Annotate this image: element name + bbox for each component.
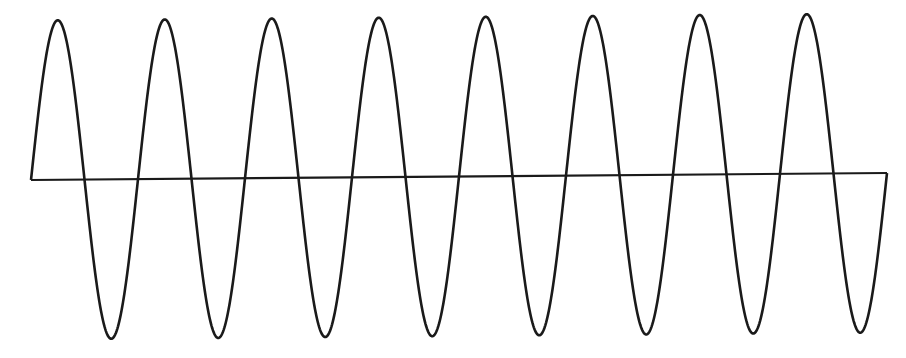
sine-wave-curve [31, 14, 887, 339]
sine-wave-diagram [0, 0, 906, 358]
diagram-svg [0, 0, 906, 358]
